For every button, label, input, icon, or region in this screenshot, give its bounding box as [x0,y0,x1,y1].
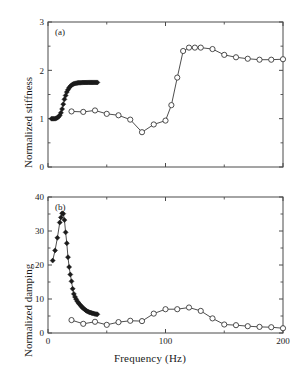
data-point-open-circle [233,55,238,60]
data-point-open-circle [181,48,186,53]
data-point-filled-diamond [70,286,75,291]
data-point-open-circle [151,122,156,127]
panel-a-stiffness: 0123(a) Normalized stiffness [0,0,300,190]
data-point-open-circle [151,311,156,316]
data-point-open-circle [69,109,74,114]
series-line-open-circle [72,48,284,133]
data-point-open-circle [81,109,86,114]
data-point-open-circle [198,308,203,313]
data-point-open-circle [92,319,97,324]
data-point-filled-diamond [68,272,73,277]
data-point-open-circle [169,103,174,108]
data-point-open-circle [128,117,133,122]
data-point-filled-diamond [57,220,62,225]
y-tick-label: 0 [40,328,45,338]
data-point-filled-diamond [50,258,55,263]
data-point-open-circle [116,113,121,118]
y-tick-label: 0 [40,162,45,172]
series-line-filled-diamond [52,82,98,118]
y-tick-label: 3 [40,17,45,27]
panel-b-y-axis-title: Normalized damping [22,264,34,357]
data-point-open-circle [222,322,227,327]
panel-b-damping: 0100200010203040(b) Normalized damping [0,185,300,380]
data-point-filled-diamond [63,230,68,235]
panel-a-y-axis-title: Normalized stiffness [22,77,34,168]
y-tick-label: 10 [35,294,45,304]
data-point-open-circle [245,56,250,61]
panel-tag: (b) [55,202,66,212]
data-point-open-circle [280,326,285,331]
data-point-open-circle [139,319,144,324]
data-point-open-circle [269,57,274,62]
data-point-open-circle [257,324,262,329]
data-point-open-circle [210,46,215,51]
data-point-open-circle [210,316,215,321]
data-point-open-circle [280,57,285,62]
data-point-open-circle [222,52,227,57]
data-point-open-circle [233,323,238,328]
data-point-open-circle [175,75,180,80]
data-point-open-circle [257,57,262,62]
data-point-open-circle [104,322,109,327]
data-point-open-circle [81,321,86,326]
data-point-open-circle [163,118,168,123]
panel-tag: (a) [55,27,65,37]
panel-b-plot: 0100200010203040(b) [0,185,300,380]
data-point-open-circle [128,318,133,323]
data-point-filled-diamond [64,241,69,246]
panel-a-plot: 0123(a) [0,0,300,190]
figure-container: 0123(a) Normalized stiffness 01002000102… [0,0,300,380]
y-tick-label: 20 [35,260,45,270]
x-tick-label: 0 [46,336,51,346]
data-point-open-circle [175,307,180,312]
plot-frame [48,22,283,167]
data-point-open-circle [92,108,97,113]
data-point-filled-diamond [55,235,60,240]
data-point-open-circle [192,45,197,50]
data-point-open-circle [245,324,250,329]
data-point-filled-diamond [53,248,58,253]
data-point-filled-diamond [65,255,70,260]
x-tick-label: 100 [159,336,173,346]
data-point-open-circle [186,305,191,310]
y-tick-label: 1 [40,114,45,124]
plot-frame [48,197,283,333]
y-tick-label: 30 [35,226,45,236]
data-point-open-circle [104,111,109,116]
data-point-open-circle [139,130,144,135]
data-point-open-circle [186,45,191,50]
data-point-filled-diamond [69,279,74,284]
data-point-open-circle [198,45,203,50]
data-point-open-circle [69,317,74,322]
data-point-open-circle [269,325,274,330]
x-tick-label: 200 [276,336,290,346]
y-tick-label: 2 [40,66,45,76]
x-axis-title: Frequency (Hz) [0,352,300,364]
data-point-filled-diamond [67,265,72,270]
data-point-open-circle [116,320,121,325]
data-point-filled-diamond [61,102,66,107]
data-point-open-circle [163,307,168,312]
y-tick-label: 40 [35,192,45,202]
